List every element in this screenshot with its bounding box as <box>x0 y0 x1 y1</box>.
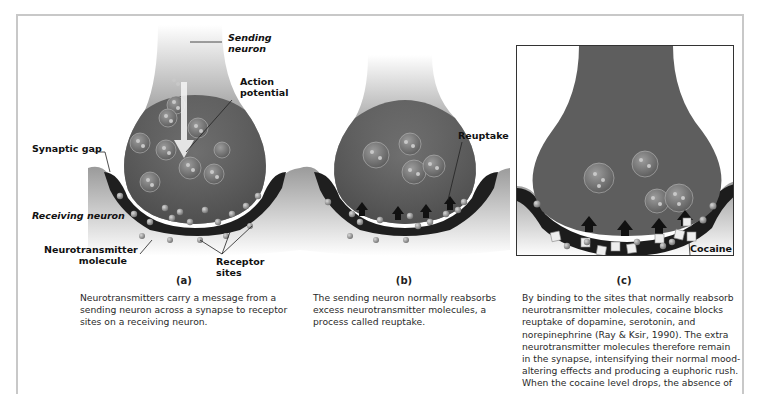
label-sending-neuron: Sending neuron <box>228 32 272 54</box>
panel-a-illustration <box>88 25 300 256</box>
panel-b-illustration <box>300 55 510 256</box>
label-neurotransmitter-molecule: Neurotransmitter molecule <box>44 244 127 266</box>
label-action-potential: Action potential <box>240 76 289 98</box>
caption-b: The sending neuron normally reabsorbs ex… <box>313 292 496 329</box>
label-reuptake: Reuptake <box>458 130 509 141</box>
panel-letter-a: (a) <box>164 275 204 286</box>
label-cocaine: Cocaine <box>690 243 732 254</box>
panel-c-frame: Cocaine <box>516 45 734 256</box>
label-receiving-neuron: Receiving neuron <box>32 210 125 221</box>
label-receptor-sites: Receptor sites <box>216 256 264 278</box>
panel-letter-b: (b) <box>384 275 424 286</box>
label-synaptic-gap: Synaptic gap <box>32 143 102 154</box>
panel-letter-c: (c) <box>604 275 644 286</box>
caption-a: Neurotransmitters carry a message from a… <box>80 292 287 329</box>
panel-c-illustration <box>517 46 734 256</box>
caption-c: By binding to the sites that normally re… <box>522 292 740 390</box>
